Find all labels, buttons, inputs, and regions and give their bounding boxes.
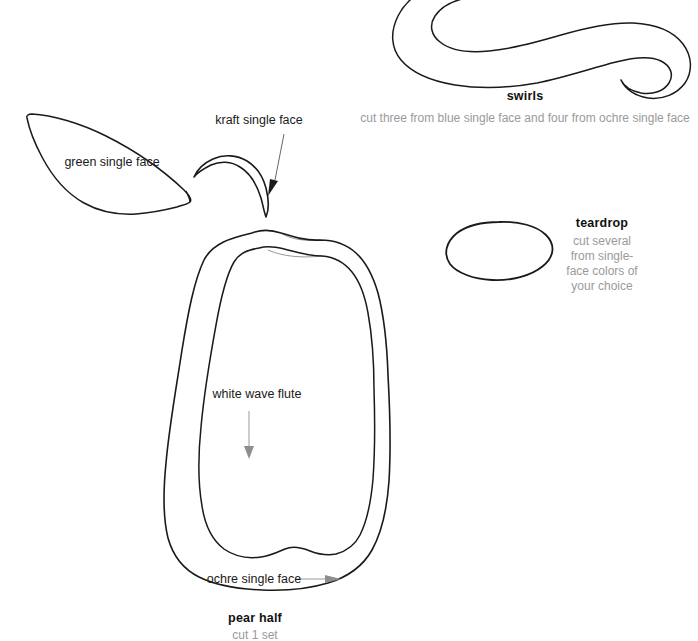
pear-inner-shape	[199, 247, 375, 558]
caption-swirls-sub: cut three from blue single face and four…	[360, 111, 690, 125]
caption-swirls-title: swirls	[507, 89, 544, 104]
caption-teardrop-sub-line1: cut several	[573, 234, 631, 248]
caption-pear-half-title: pear half	[228, 611, 282, 626]
caption-teardrop-sub-line2: from single-	[571, 249, 634, 263]
caption-teardrop-sub-line3: face colors of	[566, 264, 637, 278]
label-white-wave-flute: white wave flute	[213, 387, 302, 402]
kraft-leader-arrowhead	[268, 179, 278, 196]
label-kraft-single-face: kraft single face	[215, 113, 303, 128]
teardrop-shape	[446, 222, 552, 280]
caption-teardrop-sub-line4: your choice	[571, 279, 632, 293]
stem-shape	[194, 156, 268, 217]
kraft-leader-line	[275, 134, 284, 180]
caption-pear-half-sub: cut 1 set	[232, 628, 277, 641]
label-ochre-single-face: ochre single face	[207, 572, 302, 587]
caption-teardrop-title: teardrop	[576, 216, 628, 231]
pattern-artwork	[0, 0, 698, 641]
pattern-sheet: green single face kraft single face whit…	[0, 0, 698, 641]
label-green-single-face: green single face	[64, 155, 159, 170]
swirl-shape	[393, 0, 691, 98]
